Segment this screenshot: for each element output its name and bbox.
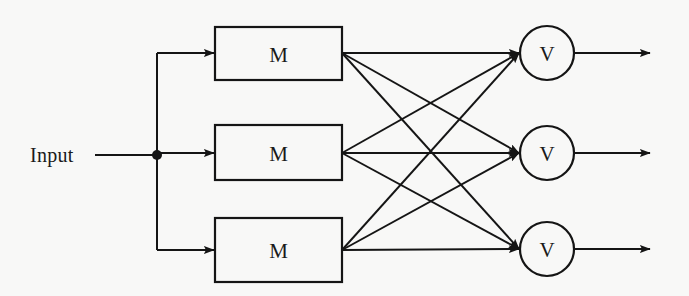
input-bus-group	[95, 53, 214, 250]
block-diagram: MMMVVVInput	[0, 0, 689, 296]
m-block-bottom-label: M	[269, 239, 288, 263]
mesh-m3-to-v3	[342, 249, 519, 250]
input-junction-dot	[152, 150, 162, 160]
output-arrows-group	[574, 53, 650, 249]
m-block-middle-label: M	[269, 142, 288, 166]
v-node-bottom-label: V	[539, 238, 554, 262]
v-node-top-label: V	[539, 42, 554, 66]
input-label: Input	[30, 144, 74, 167]
diagram-canvas: MMMVVVInput	[0, 0, 689, 296]
mesh-connections-group	[342, 53, 519, 250]
m-block-top-label: M	[269, 43, 288, 67]
v-node-middle-label: V	[539, 142, 554, 166]
